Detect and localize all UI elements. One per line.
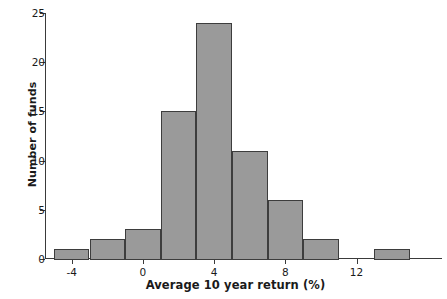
y-tick-label: 15: [23, 106, 45, 117]
histogram-bar: [268, 200, 304, 260]
x-tick-label: 4: [194, 266, 234, 278]
x-tick-label: 12: [337, 266, 377, 278]
histogram-bar: [125, 229, 161, 260]
histogram-bar: [161, 111, 197, 260]
y-axis-title: Number of funds: [26, 55, 39, 215]
histogram-bar: [54, 249, 90, 260]
histogram-bar: [196, 23, 232, 260]
x-tick-mark: [357, 259, 358, 264]
histogram-bar: [90, 239, 126, 260]
histogram-bar: [374, 249, 410, 260]
y-tick-label: 10: [23, 156, 45, 167]
y-tick-label: 25: [23, 8, 45, 19]
y-tick-label: 20: [23, 57, 45, 68]
x-tick-label: 8: [265, 266, 305, 278]
histogram-bar: [232, 151, 268, 260]
x-axis-title: Average 10 year return (%): [45, 278, 426, 292]
histogram-bar: [303, 239, 339, 260]
x-tick-label: -4: [52, 266, 92, 278]
x-tick-label: 0: [123, 266, 163, 278]
histogram-chart: Number of funds 0510152025 -404812 Avera…: [0, 0, 447, 299]
y-tick-label: 5: [23, 205, 45, 216]
y-tick-label: 0: [23, 254, 45, 265]
